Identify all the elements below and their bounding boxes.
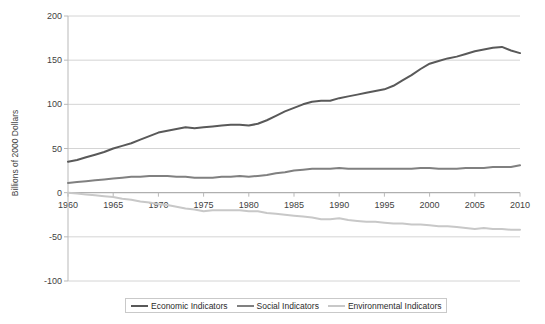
gridlines — [68, 16, 520, 281]
plot-area — [0, 0, 545, 324]
line-chart: Billions of 2000 Dollars 200150100500-50… — [0, 0, 545, 324]
series-line — [68, 165, 520, 183]
legend-color-swatch — [131, 305, 148, 307]
legend-item: Economic Indicators — [131, 301, 228, 311]
legend-label: Economic Indicators — [151, 301, 228, 311]
legend-color-swatch — [328, 305, 345, 307]
legend-item: Social Indicators — [237, 301, 319, 311]
chart-legend: Economic IndicatorsSocial IndicatorsEnvi… — [125, 298, 447, 313]
legend-color-swatch — [237, 305, 254, 307]
legend-label: Social Indicators — [257, 301, 319, 311]
series-line — [68, 193, 520, 230]
legend-item: Environmental Indicators — [328, 301, 442, 311]
legend-label: Environmental Indicators — [348, 301, 442, 311]
data-series-layer — [68, 47, 520, 230]
